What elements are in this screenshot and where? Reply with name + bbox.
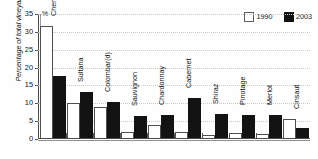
bar-colombar-d-1990[interactable]: [94, 107, 107, 138]
bar-sultana-2003[interactable]: [80, 92, 93, 138]
category-label-colombar-d: Colombar(d): [102, 52, 111, 92]
category-label-chenin: Chenin: [48, 0, 57, 16]
plot-area: % 05101520253035 CheninSultanaColombar(d…: [38, 14, 310, 139]
y-tick-10: [35, 103, 39, 104]
bar-group: Merlot: [256, 14, 283, 138]
bar-cinsaut-2003[interactable]: [296, 128, 309, 138]
y-tick-label-35: 35: [25, 10, 33, 17]
bar-pinotage-1990[interactable]: [229, 133, 242, 138]
y-tick-label-5: 5: [29, 118, 33, 125]
bar-group: Sultana: [66, 14, 93, 138]
bar-chenin-2003[interactable]: [53, 76, 66, 138]
bar-cinsaut-1990[interactable]: [283, 119, 296, 138]
bar-group: Colombar(d): [93, 14, 120, 138]
bar-pinotage-2003[interactable]: [242, 115, 255, 139]
bar-group: Cabernet: [174, 14, 201, 138]
bar-group: Pinotage: [229, 14, 256, 138]
bar-colombar-d-2003[interactable]: [107, 102, 120, 138]
bar-cabernet-1990[interactable]: [175, 132, 188, 138]
y-tick-label-10: 10: [25, 100, 33, 107]
y-tick-15: [35, 85, 39, 86]
y-tick-20: [35, 68, 39, 69]
bar-shiraz-2003[interactable]: [215, 114, 228, 138]
bar-group: Cinsaut: [283, 14, 310, 138]
bar-group: Shiraz: [202, 14, 229, 138]
bar-sauvignon-2003[interactable]: [134, 116, 147, 138]
category-label-pinotage: Pinotage: [238, 76, 247, 104]
bar-shiraz-1990[interactable]: [202, 135, 215, 138]
bar-group: Chardonnay: [147, 14, 174, 138]
y-tick-label-30: 30: [25, 28, 33, 35]
y-tick-25: [35, 50, 39, 51]
y-tick-0: [35, 139, 39, 140]
vineyard-area-bar-chart: Percentage of total vineyard area 1990 2…: [0, 0, 318, 159]
category-label-merlot: Merlot: [265, 85, 274, 105]
bar-groups: CheninSultanaColombar(d)SauvignonChardon…: [39, 14, 310, 138]
category-label-cinsaut: Cinsaut: [292, 85, 301, 109]
y-tick-35: [35, 14, 39, 15]
y-tick-5: [35, 121, 39, 122]
bar-sultana-1990[interactable]: [67, 103, 80, 138]
category-label-sauvignon: Sauvignon: [129, 72, 138, 106]
y-tick-label-20: 20: [25, 64, 33, 71]
y-tick-label-15: 15: [25, 82, 33, 89]
category-label-shiraz: Shiraz: [211, 83, 220, 103]
y-tick-30: [35, 32, 39, 33]
y-tick-label-25: 25: [25, 46, 33, 53]
bar-merlot-2003[interactable]: [269, 115, 282, 138]
x-axis-line: [38, 138, 310, 139]
bar-merlot-1990[interactable]: [256, 134, 269, 138]
category-label-sultana: Sultana: [75, 58, 84, 82]
category-label-chardonnay: Chardonnay: [156, 65, 165, 104]
x-axis-line-shadow: [38, 140, 310, 141]
bar-group: Chenin: [39, 14, 66, 138]
bar-chardonnay-2003[interactable]: [161, 115, 174, 139]
y-tick-label-0: 0: [29, 135, 33, 142]
y-axis-title: Percentage of total vineyard area: [15, 0, 23, 90]
bar-sauvignon-1990[interactable]: [121, 132, 134, 138]
bar-chardonnay-1990[interactable]: [148, 125, 161, 138]
category-label-cabernet: Cabernet: [184, 58, 193, 88]
bar-group: Sauvignon: [120, 14, 147, 138]
bar-chenin-1990[interactable]: [40, 26, 53, 138]
bar-cabernet-2003[interactable]: [188, 98, 201, 138]
